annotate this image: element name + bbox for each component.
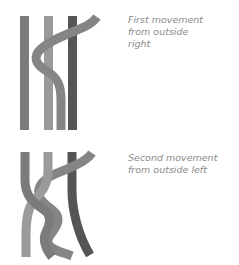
braid-step-1-diagram <box>0 0 110 135</box>
step-1-caption: First movement from outside right <box>128 14 203 50</box>
braid-step-2-diagram <box>0 140 110 265</box>
step-2-caption: Second movement from outside left <box>128 152 217 176</box>
strand-left <box>20 16 29 130</box>
